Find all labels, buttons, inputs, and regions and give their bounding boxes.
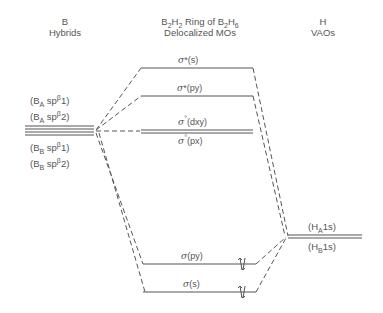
mo-label-sigma-0-px: σ°(px) — [178, 136, 202, 146]
b-hybrid-label: (BA spβ2) — [30, 111, 69, 122]
b-hybrid-label: (BB spβ1) — [30, 142, 69, 153]
mo-label-sigma-py: σ(py) — [181, 251, 203, 261]
mo-label-sigma-s: σ(s) — [183, 279, 200, 289]
h-vao-label: (HA1s) — [308, 221, 336, 232]
h-vao-label: (HB1s) — [308, 241, 336, 252]
b-hybrid-label: (BA spβ1) — [30, 95, 69, 106]
b-hybrid-label: (BB spβ2) — [30, 158, 69, 169]
mo-label-sigma-0-dxy: σ°(dxy) — [178, 117, 207, 127]
mo-label-sigma-star-s: σ*(s) — [178, 55, 198, 65]
mo-label-sigma-star-py: σ*(py) — [177, 83, 202, 93]
